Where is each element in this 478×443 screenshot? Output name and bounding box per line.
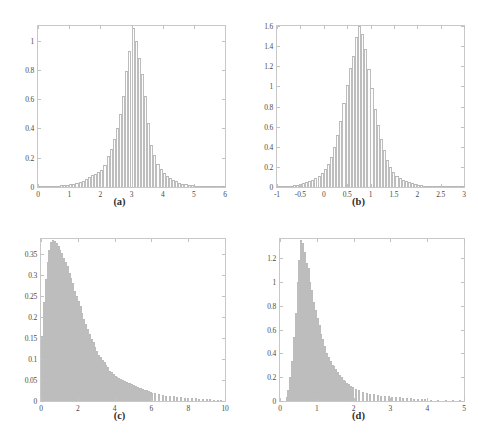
plot-area-b: -1-0.500.511.522.5300.20.40.60.811.21.41… [276,25,465,188]
y-tick-mark-right [222,70,225,71]
y-tick-mark-right [222,338,225,339]
y-tick-mark-right [222,187,225,188]
y-tick-label: 0.6 [25,95,34,104]
y-tick-label: 1.6 [264,22,273,31]
y-tick-mark [280,377,283,378]
y-tick-mark-right [461,127,464,128]
y-tick-mark [38,99,41,100]
bars-c [41,239,225,401]
y-tick-mark [277,107,280,108]
x-tick-mark [194,184,195,187]
x-tick-mark-top [151,239,152,242]
x-tick-mark-top [78,239,79,242]
x-tick-mark-top [280,239,281,242]
y-tick-label: 0.15 [25,333,37,342]
y-tick-mark-right [461,330,464,331]
histogram-bar [399,397,401,401]
y-tick-mark [41,296,44,297]
histogram-bar [162,395,164,401]
y-tick-mark [280,258,283,259]
histogram-bar [406,398,408,401]
histogram-bar [173,396,175,401]
x-tick-mark [225,184,226,187]
x-tick-mark [347,184,348,187]
x-tick-mark [354,398,355,401]
x-tick-mark-top [188,239,189,242]
y-tick-label: 1.4 [264,42,273,51]
bars-d [280,239,464,401]
y-tick-label: 0.05 [25,375,37,384]
x-tick-mark-top [38,26,39,29]
x-tick-mark-top [225,239,226,242]
y-tick-mark-right [461,187,464,188]
y-tick-label: 0.4 [267,349,276,358]
histogram-bar [421,399,423,401]
x-tick-mark-top [194,26,195,29]
histogram-bar [417,399,419,401]
histogram-bar [191,398,193,401]
x-tick-mark [163,184,164,187]
y-tick-mark [277,167,280,168]
x-tick-mark [441,184,442,187]
y-tick-mark-right [222,41,225,42]
y-tick-mark-right [222,254,225,255]
x-tick-mark-top [417,26,418,29]
bars-b [277,26,464,187]
panel-a: 012345600.20.40.60.81 (a) [0,0,239,221]
y-tick-mark-right [222,128,225,129]
y-tick-mark-right [222,380,225,381]
y-tick-label: 0.8 [25,65,34,74]
plot-area-a: 012345600.20.40.60.81 [37,25,226,188]
y-tick-mark [280,330,283,331]
histogram-bar [355,389,357,402]
panel-c: 024681000.050.10.150.20.250.30.35 (c) [0,222,239,443]
y-tick-mark-right [222,296,225,297]
histogram-bar [366,393,368,401]
histogram-bar [413,399,415,401]
y-tick-mark-right [461,282,464,283]
y-tick-mark-right [222,158,225,159]
histogram-bar [452,400,454,401]
y-tick-mark-right [461,306,464,307]
panel-d: 01234500.20.40.60.811.2 (d) [239,222,478,443]
histogram-bar [209,399,211,401]
y-tick-mark-right [461,377,464,378]
panel-b: -1-0.500.511.522.5300.20.40.60.811.21.41… [239,0,478,221]
x-tick-mark [188,398,189,401]
histogram-bar [184,398,186,401]
y-tick-mark [277,147,280,148]
histogram-figure: 012345600.20.40.60.81 (a) -1-0.500.511.5… [0,0,478,443]
y-tick-mark [277,46,280,47]
x-tick-mark-top [100,26,101,29]
y-tick-label: 0.25 [25,291,37,300]
y-tick-mark [41,359,44,360]
y-tick-label: 0.2 [264,162,273,171]
y-tick-mark [41,275,44,276]
y-tick-label: 1 [30,36,34,45]
x-tick-mark-top [464,26,465,29]
x-tick-mark-top [324,26,325,29]
y-tick-mark [277,26,280,27]
y-tick-mark [277,66,280,67]
x-tick-mark [300,184,301,187]
y-tick-mark [277,127,280,128]
plot-area-d: 01234500.20.40.60.811.2 [279,238,465,402]
histogram-bar [176,397,178,401]
y-tick-mark-right [461,86,464,87]
y-tick-mark [280,401,283,402]
y-tick-mark-right [222,275,225,276]
x-tick-mark [324,184,325,187]
y-tick-label: 0.3 [28,270,37,279]
histogram-bar [169,396,171,401]
histogram-bar [198,399,200,401]
bars-a [38,26,225,187]
histogram-bar [391,397,393,401]
y-tick-label: 0.1 [28,354,37,363]
x-tick-mark-top [132,26,133,29]
x-tick-mark [132,184,133,187]
y-tick-mark [41,401,44,402]
x-tick-mark [115,398,116,401]
y-tick-label: 0.4 [25,124,34,133]
x-tick-mark [464,398,465,401]
x-tick-mark-top [225,26,226,29]
